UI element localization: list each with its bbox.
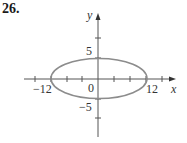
x-axis-label: x — [170, 82, 177, 96]
y-tick-label-neg5: −5 — [79, 100, 92, 114]
origin-label: 0 — [88, 81, 94, 95]
x-tick-label-12: 12 — [146, 82, 158, 96]
y-tick-label-5: 5 — [86, 44, 92, 58]
x-axis-arrow-icon — [169, 77, 176, 82]
ellipse-graph: y x 0 −12 12 5 −5 — [0, 0, 187, 143]
x-tick-label-neg12: −12 — [33, 82, 52, 96]
y-axis-arrow-icon — [96, 13, 101, 20]
y-axis-label: y — [86, 8, 93, 22]
